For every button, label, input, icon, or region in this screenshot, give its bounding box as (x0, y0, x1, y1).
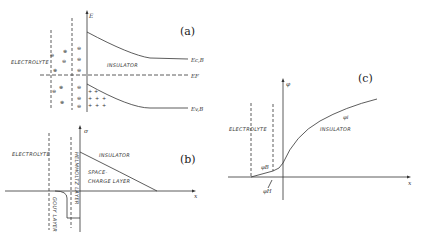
c-insulator-label: INSULATOR (320, 126, 351, 132)
b-electrolyte-label: ELECTROLYTE (12, 151, 50, 157)
hole-icon: + (88, 95, 92, 101)
ion-icon: ⊖ (62, 58, 66, 64)
panel-b-label: (b) (180, 153, 196, 166)
b-y-arrow-icon (79, 125, 82, 129)
ion-icon: ⊕ (53, 67, 57, 73)
ion-icon: ⊕ (63, 48, 67, 54)
hole-icon: + (95, 102, 99, 108)
b-helmholtz-label: HELMHOLTZ LAYER (74, 152, 80, 205)
ion-icon: ⊖ (77, 45, 81, 51)
b-insulator-label: INSULATOR (99, 152, 130, 158)
ion-icon: ⊖ (77, 84, 81, 90)
ion-icon: ⊖ (77, 95, 81, 101)
b-gouy-label: GOUY LAYER (52, 197, 58, 232)
ion-icon: ⊖ (77, 67, 81, 73)
panel-a-label: (a) (180, 25, 195, 38)
a-ions: ⊖ ⊕ ⊖ ⊕ ⊖ ⊕ ⊕ ⊖ ⊖ ⊖ ⊖ ⊖ ⊖ (50, 45, 81, 109)
b-space-charge-label-1: SPACE- (88, 169, 108, 175)
a-insulator-label: INSULATOR (107, 62, 138, 68)
band-diagram-figure: (a) E ELECTROLYTE INSULATOR Ec,B EF Ev,B… (0, 0, 428, 242)
c-x-label: x (408, 179, 412, 186)
ion-icon: ⊖ (52, 88, 56, 94)
c-electrolyte-label: ELECTROLYTE (229, 126, 267, 132)
c-phi-b-label: φB (261, 164, 269, 171)
ion-icon: ⊖ (50, 52, 54, 58)
ion-icon: ⊖ (77, 103, 81, 109)
hole-icon: + (88, 102, 92, 108)
hole-icon: + (95, 95, 99, 101)
b-sigma-label: σ (84, 127, 89, 134)
c-potential-curve (251, 99, 377, 177)
c-phiH-leader (268, 180, 272, 188)
a-electrolyte-label: ELECTROLYTE (11, 59, 49, 65)
panel-c-label: (c) (358, 72, 373, 85)
c-phi-i-label: φi (343, 114, 349, 121)
a-energy-label: E (88, 12, 94, 19)
hole-icon: + (94, 88, 98, 94)
ion-icon: ⊕ (60, 99, 64, 105)
a-valence-level-label: Ev,B (190, 106, 203, 112)
b-x-label: x (194, 192, 198, 199)
a-fermi-level-label: EF (190, 73, 199, 79)
ion-icon: ⊕ (59, 84, 63, 90)
hole-icon: + (102, 102, 106, 108)
hole-icon: + (88, 88, 92, 94)
hole-icon: + (102, 95, 106, 101)
ion-icon: ⊖ (77, 56, 81, 62)
a-holes: + + + + + + + + (88, 88, 106, 108)
b-space-charge-label-2: CHARGE LAYER (88, 178, 130, 184)
c-phi-label: φ (286, 80, 291, 88)
c-phi-h-label: φH (263, 188, 272, 195)
a-conduction-band (87, 32, 188, 59)
a-conduction-level-label: Ec,B (190, 57, 204, 63)
c-y-arrow-icon (282, 78, 285, 82)
